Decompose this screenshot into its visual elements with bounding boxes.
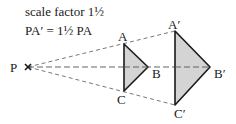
label-B-prime: B′ xyxy=(214,67,226,80)
label-C-prime: C′ xyxy=(174,107,186,120)
label-A: A xyxy=(118,30,127,43)
triangle-A-prime-B-prime-C-prime xyxy=(175,31,210,105)
label-C: C xyxy=(117,93,126,106)
label-P: P xyxy=(10,61,17,74)
label-A-prime: A′ xyxy=(168,18,180,31)
triangle-ABC xyxy=(124,44,148,91)
ray-PA xyxy=(28,31,175,67)
label-B: B xyxy=(152,67,161,80)
